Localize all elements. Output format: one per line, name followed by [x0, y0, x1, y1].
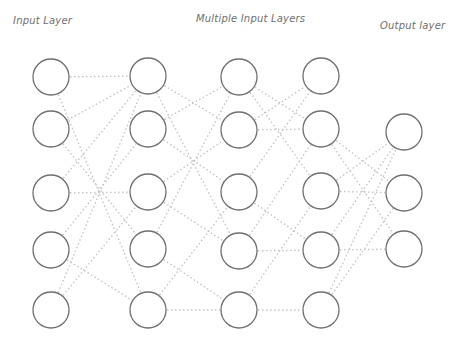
hidden-2-node-4: [221, 233, 257, 269]
connection-edge: [329, 149, 396, 293]
connection-edge: [340, 249, 385, 250]
connection-edge: [332, 208, 393, 294]
hidden-2-node-1: [221, 59, 257, 95]
hidden-3-node-1: [303, 58, 339, 94]
input-node-1: [33, 59, 69, 95]
connection-edge: [63, 91, 136, 179]
hidden-3-node-2: [303, 111, 339, 147]
connection-edge: [70, 76, 129, 77]
hidden-1-node-5: [130, 292, 166, 328]
hidden-2-node-5: [221, 292, 257, 328]
hidden-1-node-1: [130, 58, 166, 94]
hidden-3-node-4: [303, 232, 339, 268]
hidden-2-node-2: [221, 112, 257, 148]
input-node-2: [33, 111, 69, 147]
input-node-4: [33, 232, 69, 268]
connection-edge: [164, 141, 224, 182]
hidden-3-node-5: [303, 292, 339, 328]
connection-edge: [164, 260, 223, 300]
connection-edge: [68, 85, 132, 120]
hidden-1-node-3: [130, 174, 166, 210]
connection-edge: [164, 202, 223, 240]
output-node-2: [386, 175, 422, 211]
output-node-3: [386, 231, 422, 267]
connection-edge: [157, 93, 230, 234]
hidden-2-node-3: [221, 174, 257, 210]
connection-edge: [250, 145, 311, 235]
input-node-5: [33, 292, 69, 328]
connection-edge: [258, 129, 302, 130]
connection-edge: [63, 207, 136, 296]
output-node-1: [386, 114, 422, 150]
hidden-1-node-2: [130, 111, 166, 147]
hidden-1-node-4: [130, 231, 166, 267]
input-node-3: [33, 175, 69, 211]
connection-edge: [63, 144, 136, 235]
connection-edge: [160, 207, 228, 295]
connection-edge: [250, 92, 310, 177]
connection-edge: [67, 260, 132, 300]
hidden-3-node-3: [303, 173, 339, 209]
connection-edge: [255, 203, 306, 239]
neural-network-diagram: [0, 0, 465, 346]
